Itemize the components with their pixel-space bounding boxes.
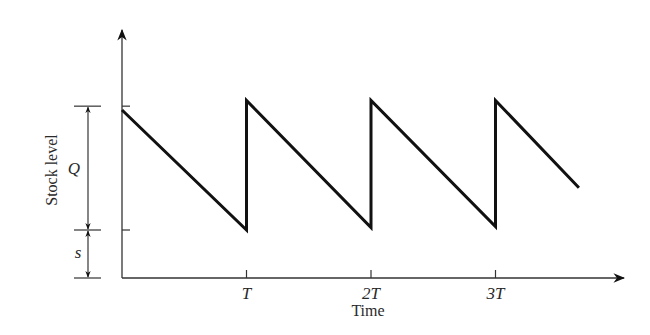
x-axis-label: Time [351,302,384,319]
stock-level-line [122,100,579,230]
q-label: Q [68,159,80,178]
y-axis-label: Stock level [43,134,60,206]
s-label: s [75,243,82,262]
x-tick-label: 3T [486,284,507,303]
inventory-sawtooth-diagram: T2T3T Stock level Time Q s [0,0,650,335]
x-tick-label: T [242,284,253,303]
x-tick-label: 2T [362,284,382,303]
